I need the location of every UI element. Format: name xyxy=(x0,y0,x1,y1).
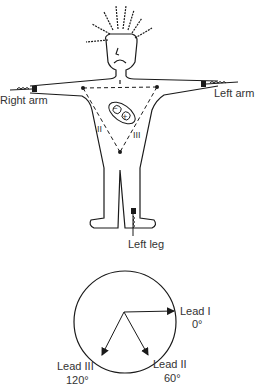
right-arm-electrode-icon xyxy=(10,86,37,92)
heart-positive-pole: + xyxy=(122,112,127,122)
triangle-vertex-right-arm xyxy=(81,86,85,90)
right-arm-label: Right arm xyxy=(0,94,48,106)
einthoven-diagram: − + II III Right arm Left arm Left leg L… xyxy=(0,0,256,388)
triangle-vertex-left-arm xyxy=(155,85,159,89)
left-leg-electrode-icon xyxy=(131,208,136,236)
heart-negative-pole: − xyxy=(112,103,117,113)
face-icon xyxy=(114,48,126,63)
lead-i-name: Lead I xyxy=(180,305,211,317)
lead-i-angle: 0° xyxy=(192,318,203,330)
lead-label-iii: III xyxy=(133,130,141,140)
lead-iii-name: Lead III xyxy=(57,360,94,372)
lead-label-ii: II xyxy=(97,124,102,134)
lead-ii-angle: 60° xyxy=(164,372,181,384)
body-outline xyxy=(30,86,218,228)
left-arm-label: Left arm xyxy=(214,87,254,99)
lead-ii-vector xyxy=(124,312,148,355)
lead-i-vector xyxy=(124,311,174,312)
triangle-vertex-left-leg xyxy=(118,150,122,154)
head-outline xyxy=(30,34,218,86)
lead-iii-vector xyxy=(102,312,124,355)
hair-icon xyxy=(86,6,152,42)
lead-iii-angle: 120° xyxy=(66,374,89,386)
lead-ii-name: Lead II xyxy=(153,358,187,370)
left-leg-label: Left leg xyxy=(128,238,164,250)
